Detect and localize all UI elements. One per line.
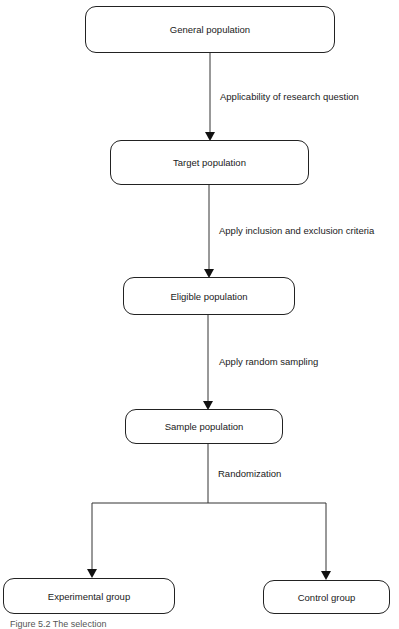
node-control-group: Control group bbox=[263, 580, 390, 614]
arrowhead-icon bbox=[87, 569, 97, 578]
node-eligible-population: Eligible population bbox=[123, 277, 295, 315]
node-label: Target population bbox=[173, 157, 246, 168]
edge-label-randomization: Randomization bbox=[218, 468, 281, 479]
node-label: General population bbox=[170, 24, 250, 35]
node-label: Eligible population bbox=[170, 291, 247, 302]
figure-caption: Figure 5.2 The selection bbox=[10, 619, 106, 629]
edge-label-inclusion-exclusion: Apply inclusion and exclusion criteria bbox=[219, 225, 374, 236]
edge-label-random-sampling: Apply random sampling bbox=[219, 356, 318, 367]
node-label: Sample population bbox=[165, 421, 244, 432]
node-sample-population: Sample population bbox=[125, 409, 283, 444]
node-label: Experimental group bbox=[48, 591, 130, 602]
node-target-population: Target population bbox=[110, 140, 309, 185]
node-experimental-group: Experimental group bbox=[3, 578, 175, 614]
edge-label-applicability: Applicability of research question bbox=[220, 91, 359, 102]
node-general-population: General population bbox=[85, 6, 335, 53]
arrowhead-icon bbox=[321, 571, 331, 580]
node-label: Control group bbox=[298, 592, 356, 603]
